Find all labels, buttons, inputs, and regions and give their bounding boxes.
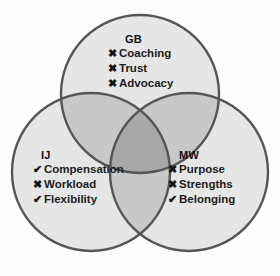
group-mw-item-1-label: Purpose	[179, 164, 225, 176]
group-mw-item-3-label: Belonging	[179, 194, 235, 206]
group-ij-item-3-label: Flexibility	[44, 194, 97, 206]
group-mw-item-2: ✖ Strengths	[168, 179, 260, 191]
group-gb-item-2: ✖ Trust	[108, 63, 194, 75]
group-ij-item-3: ✔ Flexibility	[33, 194, 133, 206]
group-gb-item-1-label: Coaching	[119, 48, 171, 60]
group-gb-item-3: ✖ Advocacy	[108, 78, 194, 90]
group-mw-item-1: ✖ Purpose	[168, 164, 260, 176]
group-gb-item-1: ✖ Coaching	[108, 48, 194, 60]
check-icon: ✔	[33, 164, 44, 175]
cross-icon: ✖	[168, 164, 179, 175]
group-ij-item-2-label: Workload	[44, 179, 96, 191]
venn-diagram-page: GB ✖ Coaching ✖ Trust ✖ Advocacy IJ ✔ Co…	[0, 0, 280, 276]
check-icon: ✔	[33, 194, 44, 205]
group-gb-item-2-label: Trust	[119, 63, 147, 75]
group-mw-label: MW	[179, 150, 260, 161]
group-ij-item-1-label: Compensation	[44, 164, 124, 176]
cross-icon: ✖	[33, 179, 44, 190]
group-gb-item-3-label: Advocacy	[119, 78, 173, 90]
cross-icon: ✖	[108, 78, 119, 89]
group-ij-item-1: ✔ Compensation	[33, 164, 133, 176]
cross-icon: ✖	[168, 179, 179, 190]
cross-icon: ✖	[108, 63, 119, 74]
group-mw: MW ✖ Purpose ✖ Strengths ✔ Belonging	[168, 150, 260, 209]
group-mw-item-2-label: Strengths	[179, 179, 233, 191]
group-gb-label: GB	[125, 34, 194, 45]
group-gb: GB ✖ Coaching ✖ Trust ✖ Advocacy	[108, 34, 194, 93]
group-ij-label: IJ	[41, 150, 133, 161]
cross-icon: ✖	[108, 48, 119, 59]
check-icon: ✔	[168, 194, 179, 205]
group-ij-item-2: ✖ Workload	[33, 179, 133, 191]
group-mw-item-3: ✔ Belonging	[168, 194, 260, 206]
group-ij: IJ ✔ Compensation ✖ Workload ✔ Flexibili…	[33, 150, 133, 209]
